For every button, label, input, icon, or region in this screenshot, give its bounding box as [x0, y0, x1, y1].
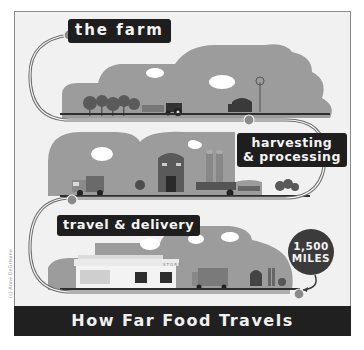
barn-icon	[250, 270, 262, 286]
cloud-icon	[140, 238, 160, 250]
tree-icon	[278, 278, 286, 286]
bush-icon	[135, 180, 145, 190]
badge-arrow-icon	[303, 275, 316, 290]
stage-label-harvesting-line2: & processing	[243, 150, 341, 164]
distance-badge: 1,500 MILES	[288, 229, 334, 275]
cloud-icon	[91, 147, 113, 161]
delivery-ground	[60, 288, 300, 290]
barn-icon	[232, 98, 252, 112]
trailer-icon	[238, 186, 260, 191]
credit-text: (c) Anne DeGrisane	[7, 249, 13, 298]
farm-scene	[60, 44, 332, 118]
stage-label-travel: travel & delivery	[57, 215, 200, 236]
cloud-icon	[221, 232, 239, 242]
cloud-icon	[146, 68, 164, 78]
farm-ground	[60, 113, 330, 115]
distance-unit: MILES	[288, 252, 334, 264]
store-sign: STORE	[163, 262, 181, 267]
silo-icon	[268, 268, 271, 286]
cloud-icon	[209, 75, 235, 89]
barn-icon	[158, 153, 184, 192]
trees-icon	[275, 179, 299, 191]
infographic-title: How Far Food Travels	[14, 306, 351, 336]
stage-label-harvesting-line1: harvesting	[243, 136, 341, 150]
infographic-artwork	[0, 0, 364, 350]
store-icon	[74, 255, 179, 288]
wagon-icon	[142, 105, 164, 112]
distance-value: 1,500	[288, 240, 334, 252]
stage-label-harvesting: harvesting & processing	[237, 133, 347, 167]
harvester-icon	[196, 182, 236, 190]
stage-label-farm: the farm	[68, 19, 171, 43]
